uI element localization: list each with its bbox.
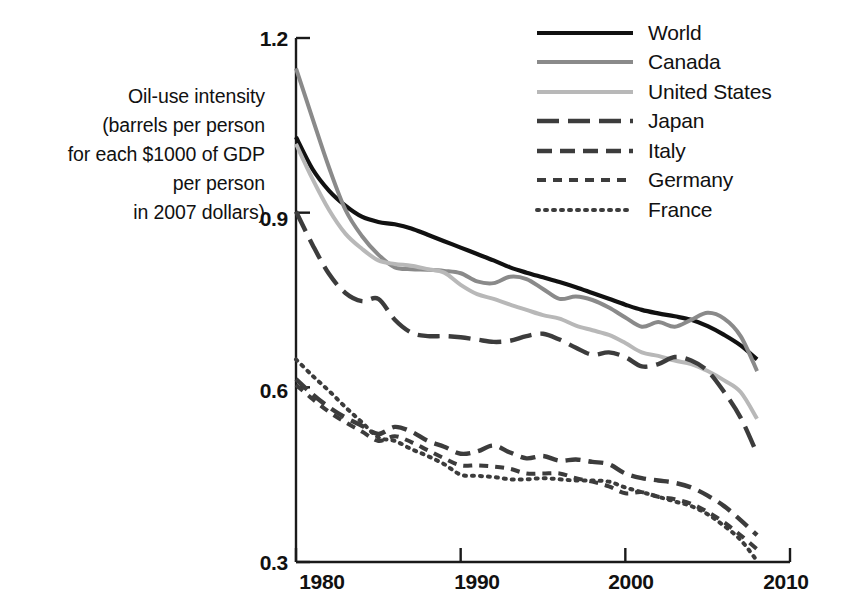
legend-item-canada[interactable]: Canada — [536, 48, 836, 78]
legend-label-world: World — [648, 21, 701, 45]
legend-swatch-france — [536, 203, 634, 217]
legend-label-italy: Italy — [648, 139, 686, 163]
legend-item-world[interactable]: World — [536, 18, 836, 48]
legend-item-japan[interactable]: Japan — [536, 107, 836, 137]
legend-label-united-states: United States — [648, 80, 771, 104]
series-line-japan — [296, 212, 757, 454]
legend-swatch-italy — [536, 144, 634, 158]
legend-swatch-world — [536, 26, 634, 40]
legend-item-germany[interactable]: Germany — [536, 166, 836, 196]
series-line-germany — [296, 385, 757, 549]
legend-swatch-united-states — [536, 85, 634, 99]
chart-figure: Oil-use intensity (barrels per person fo… — [0, 0, 845, 612]
legend-label-germany: Germany — [648, 168, 733, 192]
series-line-italy — [296, 379, 757, 535]
legend-label-canada: Canada — [648, 50, 720, 74]
legend-item-italy[interactable]: Italy — [536, 136, 836, 166]
legend-label-france: France — [648, 198, 712, 222]
legend-item-france[interactable]: France — [536, 195, 836, 225]
legend-swatch-canada — [536, 55, 634, 69]
legend-label-japan: Japan — [648, 109, 704, 133]
chart-legend: World Canada United States Japan Italy G… — [536, 18, 836, 225]
legend-swatch-japan — [536, 114, 634, 128]
legend-swatch-germany — [536, 173, 634, 187]
legend-item-united-states[interactable]: United States — [536, 77, 836, 107]
